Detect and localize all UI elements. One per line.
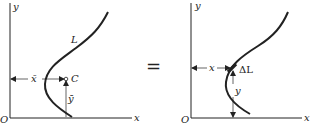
left-curve-L bbox=[45, 12, 108, 117]
x-label: x bbox=[209, 62, 215, 73]
y-label: y bbox=[234, 85, 241, 96]
left-panel: y x O L C x̄ ȳ bbox=[0, 1, 140, 125]
right-y-axis-label: y bbox=[194, 0, 201, 11]
right-panel: y x O ΔL x y bbox=[181, 0, 310, 125]
left-curve-label: L bbox=[70, 34, 78, 45]
right-x-axis-label: x bbox=[304, 112, 310, 123]
equals-sign: = bbox=[146, 56, 161, 77]
centroid-point bbox=[64, 77, 68, 81]
centroid-label: C bbox=[71, 73, 79, 84]
delta-L-label: ΔL bbox=[239, 64, 253, 75]
x-bar-label: x̄ bbox=[31, 73, 37, 84]
left-y-axis-label: y bbox=[12, 1, 19, 12]
left-origin-label: O bbox=[0, 114, 8, 125]
y-bar-label: ȳ bbox=[67, 93, 74, 104]
right-curve bbox=[226, 12, 288, 114]
left-x-axis-label: x bbox=[134, 112, 140, 123]
centroid-of-line-diagram: y x O L C x̄ ȳ = y x O ΔL x y bbox=[0, 0, 311, 126]
right-origin-label: O bbox=[181, 114, 189, 125]
